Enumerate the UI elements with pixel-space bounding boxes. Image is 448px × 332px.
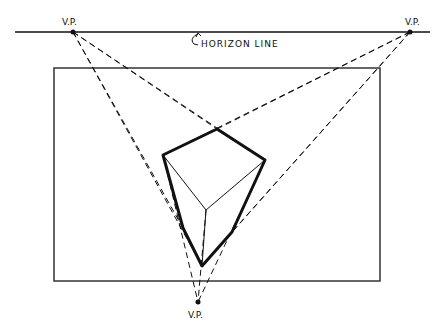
vp-bottom-dot [196, 300, 201, 305]
vp-right-dot [408, 30, 413, 35]
horizon-label: HORIZON LINE [201, 39, 279, 49]
horizon-arrowhead-icon [196, 33, 201, 37]
box-outline [163, 129, 265, 266]
vp-left-dot [71, 30, 76, 35]
construction-lines [73, 32, 410, 302]
vp-right-label: V.P. [405, 17, 420, 27]
vp-bottom-label: V.P. [188, 310, 203, 320]
three-point-perspective-diagram: V.P. V.P. V.P. HORIZON LINE [0, 0, 448, 332]
vp-left-label: V.P. [62, 17, 77, 27]
